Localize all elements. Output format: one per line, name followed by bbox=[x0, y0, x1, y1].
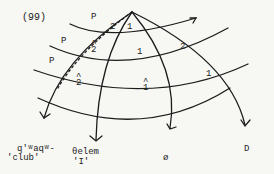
label-D: D bbox=[244, 145, 249, 154]
p-label-2: P bbox=[61, 37, 66, 46]
region-2-band1: 2 bbox=[180, 43, 185, 52]
label-I-line1: θelem bbox=[72, 148, 99, 157]
region-1-band1: 1 bbox=[137, 48, 142, 57]
label-I-line2: 'I' bbox=[73, 158, 89, 167]
arrow-4 bbox=[241, 120, 250, 126]
arrow-3 bbox=[167, 124, 176, 129]
region-2-top: 2 bbox=[110, 23, 115, 32]
label-null: ø bbox=[163, 154, 168, 163]
p-label-1: P bbox=[91, 13, 96, 22]
example-number: (99) bbox=[22, 13, 46, 22]
p-label-3: P bbox=[49, 57, 54, 66]
label-club-line2: 'club' bbox=[7, 154, 39, 163]
meridian-1 bbox=[44, 12, 132, 118]
hat-1-band2: ^ 1 bbox=[143, 80, 148, 93]
hat-2-band2: ^ 2 bbox=[76, 75, 81, 88]
hat-2-band1: ^ 2 bbox=[91, 42, 96, 55]
arc-4 bbox=[38, 88, 230, 119]
region-1-band2-right: 1 bbox=[206, 70, 211, 79]
arc-1 bbox=[70, 18, 196, 33]
region-1-top: 1 bbox=[127, 23, 132, 32]
